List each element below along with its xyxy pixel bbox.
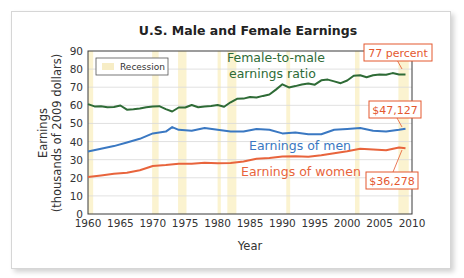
x-axis-ticks: 1960196519701975198019851990199520002005…	[75, 217, 426, 229]
recession-band	[218, 51, 221, 214]
y-tick-label: 40	[70, 136, 83, 148]
callout-ratio-text: 77 percent	[368, 47, 428, 60]
y-tick-label: 30	[70, 154, 83, 166]
y-tick-label: 50	[70, 117, 83, 129]
y-tick-label: 90	[70, 45, 83, 57]
x-tick-label: 1980	[204, 217, 231, 229]
y-axis-label: Earnings	[36, 108, 50, 158]
x-tick-label: 1985	[237, 217, 264, 229]
x-axis-label: Year	[237, 239, 263, 253]
chart-title: U.S. Male and Female Earnings	[139, 23, 357, 38]
x-tick-label: 2005	[366, 217, 393, 229]
series-label-men: Earnings of men	[249, 138, 351, 153]
series-label-ratio: Female-to-male	[227, 50, 325, 65]
y-tick-label: 60	[70, 99, 83, 111]
x-tick-label: 1995	[301, 217, 328, 229]
line-chart: U.S. Male and Female Earnings 0102030405…	[0, 0, 464, 278]
x-tick-label: 1965	[107, 217, 134, 229]
recession-band	[178, 51, 186, 214]
x-tick-label: 1970	[139, 217, 166, 229]
legend: Recession	[96, 58, 168, 75]
callout-women-text: $36,278	[369, 175, 415, 188]
series-label-ratio-2: earnings ratio	[229, 66, 316, 81]
callout-ratio: 77 percent	[364, 44, 432, 69]
x-tick-label: 1960	[75, 217, 102, 229]
series-label-women: Earnings of women	[241, 164, 361, 179]
y-tick-label: 10	[70, 190, 83, 202]
y-tick-label: 20	[70, 172, 83, 184]
legend-label-recession: Recession	[120, 62, 165, 72]
callout-men-text: $47,127	[372, 104, 418, 117]
recession-swatch-icon	[102, 63, 114, 70]
x-tick-label: 2010	[399, 217, 426, 229]
y-tick-label: 70	[70, 81, 83, 93]
callout-women: $36,278	[366, 150, 418, 189]
y-tick-label: 80	[70, 63, 83, 75]
x-tick-label: 2000	[334, 217, 361, 229]
x-tick-label: 1975	[172, 217, 199, 229]
recession-band	[88, 51, 93, 214]
x-tick-label: 1990	[269, 217, 296, 229]
y-axis-ticks: 0102030405060708090	[70, 45, 83, 220]
y-axis-sublabel: (thousands of 2009 dollars)	[50, 54, 64, 213]
